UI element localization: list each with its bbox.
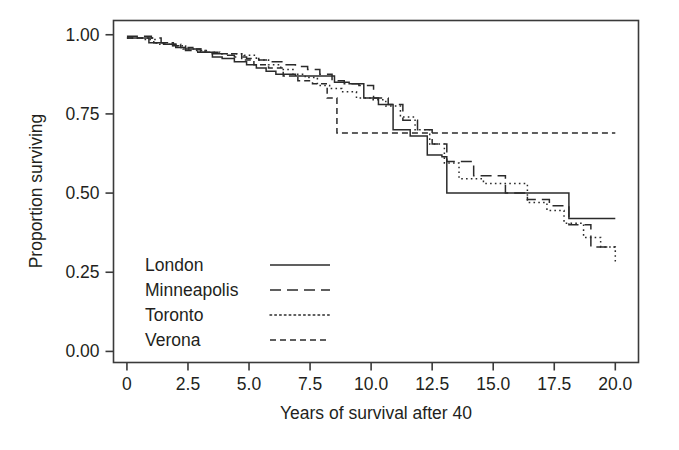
x-tick-label-0: 0 (122, 374, 132, 394)
legend-label-minneapolis: Minneapolis (145, 280, 239, 300)
y-tick-label-0.50: 0.50 (65, 183, 99, 203)
x-tick-label-2.5: 2.5 (176, 374, 200, 394)
series-line-toronto (127, 38, 615, 264)
x-tick-label-10.0: 10.0 (354, 374, 388, 394)
x-tick-label-20.0: 20.0 (598, 374, 632, 394)
series-lines (127, 36, 615, 264)
legend-label-toronto: Toronto (145, 305, 203, 325)
x-axis-tick-labels: 02.55.07.510.012.515.017.520.0 (122, 374, 633, 394)
y-tick-label-1.00: 1.00 (65, 25, 99, 45)
legend-label-london: London (145, 255, 203, 275)
chart-canvas: 02.55.07.510.012.515.017.520.0 1.000.750… (0, 0, 679, 450)
y-tick-label-0.75: 0.75 (65, 104, 99, 124)
y-axis-tick-labels: 1.000.750.500.250.00 (65, 25, 99, 362)
y-axis-title: Proportion surviving (26, 114, 46, 269)
legend-label-verona: Verona (145, 330, 201, 350)
x-tick-label-5.0: 5.0 (237, 374, 262, 394)
series-line-london (127, 38, 615, 219)
x-tick-label-7.5: 7.5 (298, 374, 322, 394)
x-tick-label-17.5: 17.5 (537, 374, 571, 394)
x-tick-label-12.5: 12.5 (415, 374, 449, 394)
chart-legend: LondonMinneapolisTorontoVerona (145, 255, 330, 350)
x-axis-title: Years of survival after 40 (280, 403, 472, 423)
y-tick-label-0.00: 0.00 (65, 341, 99, 361)
survival-chart-figure: 02.55.07.510.012.515.017.520.0 1.000.750… (0, 0, 679, 450)
series-line-minneapolis (127, 36, 615, 247)
y-axis-tickmarks (106, 35, 114, 352)
x-axis-tickmarks (127, 363, 615, 371)
y-tick-label-0.25: 0.25 (65, 262, 99, 282)
x-tick-label-15.0: 15.0 (476, 374, 510, 394)
